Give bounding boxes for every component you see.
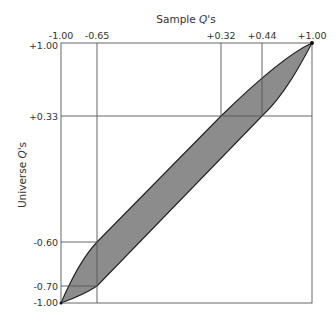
x-tick-label: +0.32 — [206, 30, 235, 41]
x-axis-title: Sample Q's — [156, 13, 215, 25]
y-tick-label: -0.60 — [33, 237, 58, 248]
chart-canvas: Sample Q's -1.00 -0.65 +0.32 +0.44 +1.00… — [0, 0, 336, 321]
y-tick-label: +1.00 — [29, 40, 58, 51]
x-tick-label: +1.00 — [297, 30, 326, 41]
y-tick-label: +0.33 — [29, 111, 58, 122]
y-tick-label: -0.70 — [33, 281, 58, 292]
confidence-band — [61, 43, 312, 303]
x-tick-label: +0.44 — [247, 30, 276, 41]
y-tick-label: -1.00 — [33, 297, 58, 308]
x-tick-label: -0.65 — [85, 30, 110, 41]
endpoint-top-right — [310, 41, 314, 45]
endpoint-bottom-left — [60, 302, 63, 305]
y-axis-title: Universe Q's — [16, 142, 28, 208]
